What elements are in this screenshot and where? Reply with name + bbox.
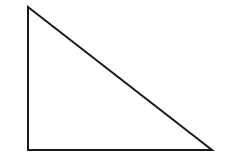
diagram-canvas (0, 0, 236, 167)
right-triangle-shape (28, 7, 212, 150)
